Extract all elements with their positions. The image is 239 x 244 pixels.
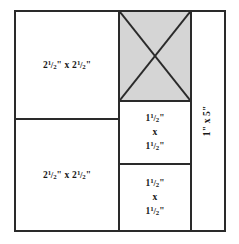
cell-left-top: 21/2" x 21/2"	[16, 12, 120, 120]
fraction-one-half-2: 1/2	[150, 206, 159, 216]
label-line-3: 11/2"	[145, 206, 164, 216]
label-times: x	[65, 60, 70, 70]
label-inch-mark-2: "	[159, 206, 164, 216]
cell-left-top-label: 21/2" x 21/2"	[43, 58, 91, 73]
cell-middle-top-shaded	[120, 12, 192, 102]
label-inch-mark-2: "	[86, 170, 91, 180]
label-line-3: 11/2"	[145, 141, 164, 151]
label-inch-mark-2: "	[86, 60, 91, 70]
label-inch-mark: "	[57, 60, 62, 70]
cell-middle-bottom: 11/2" x 11/2"	[120, 165, 192, 230]
cell-right-strip: 1" x 5"	[192, 12, 224, 230]
diagram-frame: 21/2" x 21/2" 21/2" x 21/2" 11/2" x 11/2…	[14, 10, 226, 232]
fraction-one-half-2: 1/2	[77, 170, 86, 180]
cell-middle-center-label: 11/2" x 11/2"	[145, 111, 164, 154]
label-times: x	[65, 170, 70, 180]
label-line-1: 11/2"	[145, 178, 164, 188]
label-times: x	[153, 127, 158, 137]
fraction-one-half: 1/2	[150, 178, 159, 188]
x-cross-diagonals-icon	[120, 12, 190, 100]
label-inch-mark: "	[57, 170, 62, 180]
fraction-one-half-2: 1/2	[150, 141, 159, 151]
label-line-1: 11/2"	[145, 113, 164, 123]
cell-left-bottom-label: 21/2" x 21/2"	[43, 168, 91, 183]
cell-middle-bottom-label: 11/2" x 11/2"	[145, 176, 164, 219]
cell-middle-center: 11/2" x 11/2"	[120, 102, 192, 165]
label-inch-mark: "	[159, 113, 164, 123]
fraction-one-half: 1/2	[150, 113, 159, 123]
fraction-one-half-2: 1/2	[77, 60, 86, 70]
label-inch-mark: "	[159, 178, 164, 188]
fraction-one-half: 1/2	[48, 170, 57, 180]
cell-right-strip-label: 1" x 5"	[201, 106, 215, 137]
quilt-block-diagram: 21/2" x 21/2" 21/2" x 21/2" 11/2" x 11/2…	[0, 0, 239, 244]
label-times: x	[153, 192, 158, 202]
label-inch-mark-2: "	[159, 141, 164, 151]
fraction-one-half: 1/2	[48, 60, 57, 70]
cell-left-bottom: 21/2" x 21/2"	[16, 120, 120, 230]
